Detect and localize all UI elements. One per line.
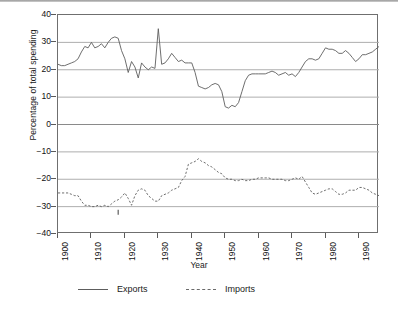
x-tick-label: 1970 bbox=[295, 242, 304, 261]
legend-key-dashed-icon bbox=[186, 289, 216, 290]
x-tick-mark bbox=[325, 233, 326, 238]
legend-item-exports: Exports bbox=[78, 284, 148, 294]
chart-root: Percentage of total spending 403020100−1… bbox=[0, 0, 398, 311]
legend-label-exports: Exports bbox=[117, 284, 148, 294]
x-tick-label: 1950 bbox=[228, 242, 237, 261]
legend-label-imports: Imports bbox=[225, 284, 255, 294]
y-tick-mark bbox=[51, 96, 56, 97]
x-tick-mark bbox=[124, 233, 125, 238]
y-tick-mark bbox=[51, 206, 56, 207]
x-tick-label: 1990 bbox=[362, 242, 371, 261]
x-tick-mark bbox=[90, 233, 91, 238]
y-tick-mark bbox=[51, 124, 56, 125]
y-tick-mark bbox=[51, 233, 56, 234]
y-tick-mark bbox=[51, 41, 56, 42]
x-tick-label: 1940 bbox=[195, 242, 204, 261]
x-tick-mark bbox=[291, 233, 292, 238]
x-tick-label: 1980 bbox=[329, 242, 338, 261]
x-tick-label: 1910 bbox=[94, 242, 103, 261]
chart-legend: Exports Imports bbox=[0, 282, 398, 304]
x-tick-mark bbox=[57, 233, 58, 238]
x-tick-mark bbox=[191, 233, 192, 238]
x-tick-mark bbox=[157, 233, 158, 238]
x-tick-mark bbox=[358, 233, 359, 238]
x-tick-label: 1900 bbox=[61, 242, 70, 261]
legend-key-solid-icon bbox=[78, 289, 108, 290]
x-tick-label: 1930 bbox=[161, 242, 170, 261]
y-tick-mark bbox=[51, 151, 56, 152]
y-tick-mark bbox=[51, 69, 56, 70]
y-tick-mark bbox=[51, 178, 56, 179]
x-tick-label: 1920 bbox=[128, 242, 137, 261]
x-axis-title: Year bbox=[0, 260, 398, 270]
legend-item-imports: Imports bbox=[186, 284, 255, 294]
x-tick-mark bbox=[224, 233, 225, 238]
x-tick-label: 1960 bbox=[262, 242, 271, 261]
y-tick-mark bbox=[51, 14, 56, 15]
x-tick-mark bbox=[258, 233, 259, 238]
